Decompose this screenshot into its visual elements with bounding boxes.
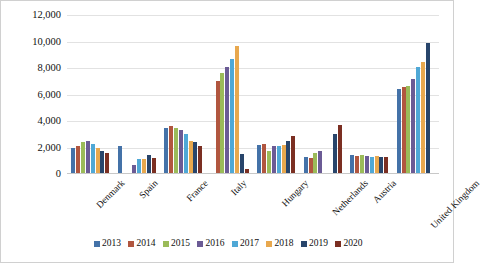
bar [286,141,290,174]
bar-group [346,15,393,174]
bar [81,142,85,174]
x-axis-tick-label: Spain [137,178,159,200]
bar [309,158,313,174]
legend-item[interactable]: 2016 [197,239,225,249]
bar [216,81,220,174]
legend-swatch-icon [197,241,203,247]
bar [360,155,364,174]
bar-groups [67,15,439,174]
bar [384,157,388,174]
bar [189,141,193,174]
bar-group [393,15,440,174]
bar [365,156,369,174]
plot-area [67,15,439,174]
legend-swatch-icon [232,241,238,247]
x-axis-label-cell: Austria [346,176,393,228]
x-axis-label-cell: Hungary [253,176,300,228]
bar [240,154,244,174]
bar [118,146,122,174]
x-axis-label-cell: United Kingdom [393,176,440,228]
bar [411,79,415,174]
x-axis-line [67,173,439,174]
bar [370,157,374,174]
x-axis-label-cell: Italy [207,176,254,228]
bar [375,156,379,174]
legend-item[interactable]: 2020 [335,239,363,249]
x-axis-tick-label: United Kingdom [429,178,481,230]
bar [164,128,168,174]
y-axis-tick-label: 12,000 [3,10,61,21]
bar [76,146,80,174]
bar [86,141,90,174]
legend-label: 2016 [206,239,225,249]
bar [230,59,234,174]
bar [225,67,229,174]
chart-legend: 20132014201520162017201820192020 [1,239,455,249]
legend-item[interactable]: 2014 [128,239,156,249]
bar [272,146,276,174]
legend-item[interactable]: 2015 [163,239,191,249]
legend-swatch-icon [301,241,307,247]
y-axis-tick-label: 8,000 [3,63,61,74]
bar [71,148,75,175]
bar-group [207,15,254,174]
bar-group [67,15,114,174]
bar [174,128,178,174]
bar [257,145,261,174]
bar [282,145,286,174]
bar [406,86,410,174]
legend-swatch-icon [128,241,134,247]
bar [137,159,141,174]
bar [333,134,337,174]
x-axis-tick-label: Italy [229,178,248,197]
legend-item[interactable]: 2017 [232,239,260,249]
bar [291,136,295,174]
legend-label: 2017 [240,239,259,249]
bar [277,146,281,174]
legend-label: 2020 [344,239,363,249]
y-axis-tick-label: 0 [3,169,61,180]
bar-group [300,15,347,174]
legend-item[interactable]: 2019 [301,239,329,249]
bar [267,151,271,174]
bar-group [114,15,161,174]
legend-swatch-icon [335,241,341,247]
bar-group [253,15,300,174]
bar [426,43,430,174]
bar [421,62,425,174]
bar [96,148,100,174]
bar [193,142,197,174]
legend-label: 2013 [102,239,121,249]
legend-item[interactable]: 2018 [266,239,294,249]
legend-swatch-icon [266,241,272,247]
bar [313,153,317,174]
y-axis-labels: 02,0004,0006,0008,00010,00012,000 [1,15,61,174]
y-axis-tick-label: 6,000 [3,89,61,100]
bar [350,155,354,174]
bar [235,46,239,174]
bar [379,157,383,174]
y-axis-tick-label: 10,000 [3,36,61,47]
y-axis-tick-label: 2,000 [3,142,61,153]
bar [147,155,151,174]
bar [262,144,266,174]
bar [304,157,308,174]
bar [142,159,146,174]
legend-label: 2019 [309,239,328,249]
bar [169,126,173,174]
bar [152,158,156,174]
legend-swatch-icon [94,241,100,247]
bar [397,89,401,174]
bar [179,130,183,174]
legend-label: 2018 [275,239,294,249]
bar [338,125,342,174]
bar [198,146,202,174]
legend-item[interactable]: 2013 [94,239,122,249]
bar [318,151,322,174]
bar [220,73,224,174]
x-axis-label-cell: Netherlands [300,176,347,228]
bar [100,151,104,174]
legend-label: 2014 [137,239,156,249]
bar [416,67,420,174]
y-axis-tick-label: 4,000 [3,116,61,127]
